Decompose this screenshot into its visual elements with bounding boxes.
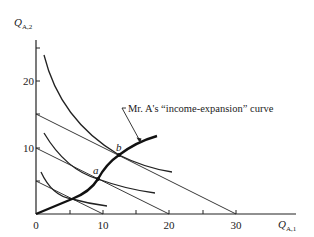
- y-tick-label-20: 20: [23, 75, 35, 87]
- y-tick-label-10: 10: [23, 142, 35, 154]
- budget-lines: [36, 114, 236, 214]
- x-tick-label-30: 30: [231, 219, 243, 231]
- x-axis-label: QA,1: [278, 218, 297, 233]
- y-axis-label: QA,2: [14, 16, 33, 31]
- point-a-label: a: [93, 164, 99, 176]
- x-tick-label-10: 10: [98, 219, 110, 231]
- budget-line-3: [36, 114, 236, 214]
- point-a-marker: [96, 177, 100, 181]
- x-tick-label-20: 20: [164, 219, 176, 231]
- indifference-diagram: 0 10 20 30 10 20 QA,2 QA,1 a b Mr. A's “…: [0, 0, 314, 237]
- x-tick-label-0: 0: [33, 219, 39, 231]
- point-b-label: b: [116, 141, 122, 153]
- point-b-marker: [117, 153, 121, 157]
- indifference-curve-1: [41, 172, 107, 206]
- annotation-text: Mr. A's “income-expansion” curve: [128, 103, 274, 114]
